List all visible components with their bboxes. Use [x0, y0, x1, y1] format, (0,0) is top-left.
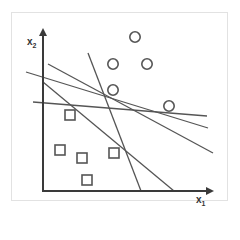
square-marker: [77, 153, 87, 163]
square-marker: [55, 145, 65, 155]
circle-marker: [164, 101, 174, 111]
y-axis-label: x2: [27, 36, 36, 49]
separating-line: [33, 102, 207, 116]
separating-lines: [26, 53, 213, 191]
square-marker: [65, 110, 75, 120]
circle-marker: [108, 85, 118, 95]
x-axis-label: x1: [196, 194, 205, 207]
class-circles: [108, 32, 174, 111]
square-marker: [109, 148, 119, 158]
circle-marker: [142, 59, 152, 69]
separating-line: [26, 72, 208, 128]
separating-line: [48, 64, 213, 153]
square-marker: [82, 175, 92, 185]
circle-marker: [130, 32, 140, 42]
separating-line: [43, 82, 174, 191]
class-squares: [55, 110, 119, 185]
circle-marker: [108, 59, 118, 69]
separating-line: [88, 53, 141, 191]
